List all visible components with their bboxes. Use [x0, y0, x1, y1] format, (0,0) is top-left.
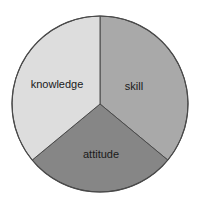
pie-slices: [12, 16, 188, 192]
slice-label-attitude: attitude: [83, 148, 119, 160]
slice-label-skill: skill: [125, 80, 143, 92]
slice-label-knowledge: knowledge: [31, 78, 84, 90]
pie-chart: [0, 0, 197, 203]
